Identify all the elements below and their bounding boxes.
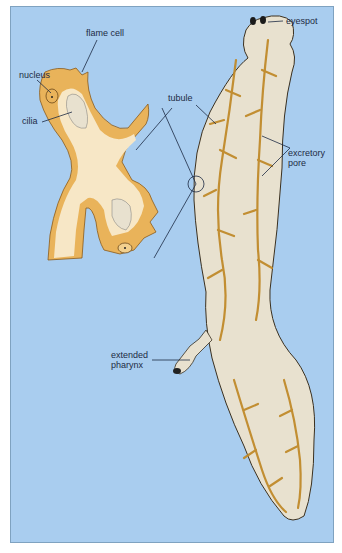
planarian-body <box>173 16 315 520</box>
label-pharynx-line2: pharynx <box>111 360 143 370</box>
diagram-graphic <box>0 0 342 553</box>
flame-cell-inset <box>40 68 158 260</box>
label-excretory-pore-line1: excretory <box>288 148 325 158</box>
label-nucleus: nucleus <box>19 70 50 80</box>
label-tubule: tubule <box>168 93 193 103</box>
label-eyespot: eyespot <box>286 16 318 26</box>
label-pharynx-line1: extended <box>111 350 148 360</box>
label-cilia: cilia <box>22 116 38 126</box>
label-flame-cell: flame cell <box>86 28 124 38</box>
label-excretory-pore-line2: pore <box>288 158 306 168</box>
